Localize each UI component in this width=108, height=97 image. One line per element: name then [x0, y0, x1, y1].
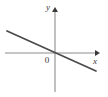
y-axis-arrow-icon [52, 7, 58, 12]
coordinate-plane-figure: y x 0 [0, 0, 108, 97]
x-axis-label: x [92, 56, 97, 66]
y-axis-label: y [45, 2, 50, 12]
plotted-line [7, 31, 96, 71]
coordinate-plane-svg: y x 0 [0, 0, 108, 97]
origin-label: 0 [45, 55, 50, 65]
